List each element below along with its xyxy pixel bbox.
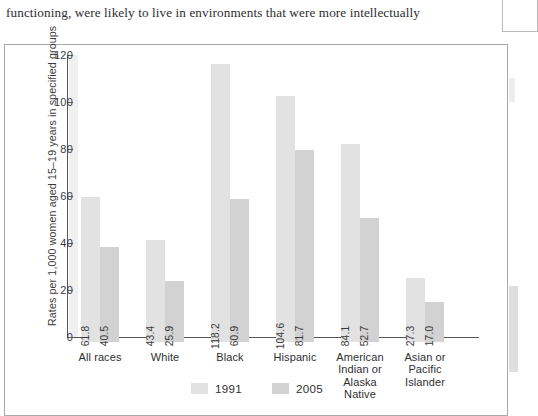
y-axis-tick-mark [68,149,73,150]
y-axis-tick-label: 0 [27,331,73,343]
bar-value-label: 17.0 [424,326,435,347]
bar-value-label: 60.9 [229,326,240,347]
x-axis-label-line: Pacific [382,363,468,375]
bar-value-label: 52.7 [359,326,370,347]
figure-bar-chart: Rates per 1,000 women aged 15–19 years i… [4,44,508,416]
bar-value-label: 84.1 [340,326,351,347]
bar-2005: 81.7 [295,150,314,342]
y-axis-tick-label: 60 [27,190,73,202]
x-axis-label-line: Asian or [382,351,468,363]
y-axis-tick-label: 120 [27,49,73,61]
bar-group: 104.681.7 [276,60,314,342]
bar-2005: 40.5 [100,247,119,342]
bar-2005: 17.0 [425,302,444,342]
bar-2005: 52.7 [360,218,379,342]
bar-1991: 43.4 [146,240,165,342]
bar-value-label: 27.3 [405,326,416,347]
bar-1991: 61.8 [81,197,100,342]
bar-1991: 104.6 [276,96,295,342]
y-axis-tick-mark [68,55,73,56]
page-edge-artifact [502,0,538,32]
bar-value-label: 81.7 [294,326,305,347]
bar-1991: 118.2 [211,64,230,342]
y-axis-tick-label: 40 [27,237,73,249]
legend-swatch-1991 [191,383,208,394]
y-axis-tick-mark [68,290,73,291]
legend-swatch-2005 [272,383,289,394]
legend-label: 1991 [215,382,242,395]
bar-group: 43.425.9 [146,60,184,342]
y-axis-tick-label: 80 [27,143,73,155]
chart-legend: 19912005 [5,382,509,395]
bar-group: 84.152.7 [341,60,379,342]
bar-value-label: 40.5 [99,326,110,347]
bar-group: 118.260.9 [211,60,249,342]
legend-item-1991: 1991 [191,382,242,395]
bar-value-label: 43.4 [145,326,156,347]
y-axis-tick-mark [68,102,73,103]
right-scan-artifact [509,286,518,372]
y-axis-tick-mark [68,196,73,197]
y-axis-tick-mark [68,243,73,244]
legend-item-2005: 2005 [272,382,323,395]
y-axis-tick-mark [68,337,73,338]
right-scan-artifact-top [509,78,515,102]
bar-group: 27.317.0 [406,60,444,342]
bar-1991: 27.3 [406,278,425,342]
bar-2005: 60.9 [230,199,249,342]
page-body-text: functioning, were likely to live in envi… [6,4,484,22]
bar-1991: 84.1 [341,144,360,342]
bar-value-label: 61.8 [80,326,91,347]
y-axis-tick-label: 100 [27,96,73,108]
plot-area: 020406080100120 61.840.543.425.9118.260.… [67,55,479,343]
bar-2005: 25.9 [165,281,184,342]
bar-value-label: 25.9 [164,326,175,347]
bar-value-label: 118.2 [210,323,221,349]
bar-value-label: 104.6 [275,323,286,350]
bar-group: 61.840.5 [81,60,119,342]
legend-label: 2005 [296,382,323,395]
y-axis-tick-label: 20 [27,284,73,296]
